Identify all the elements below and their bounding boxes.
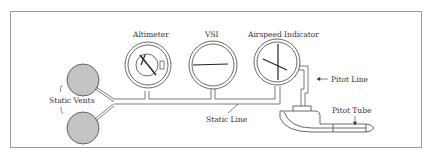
pitot-line <box>299 66 308 106</box>
vsi-gauge <box>189 41 237 89</box>
vent-connectors <box>95 87 114 121</box>
pitot-static-diagram: Altimeter VSI Airspeed Indicator Static … <box>0 0 430 157</box>
static-vent-top <box>67 64 99 96</box>
airspeed-gauge <box>254 39 300 85</box>
static-vents-label: Static Vents <box>49 96 95 105</box>
airspeed-indicator-label: Airspeed Indicator <box>247 30 319 39</box>
vsi-label: VSI <box>204 30 219 39</box>
pitot-line-label: Pitot Line <box>331 75 369 84</box>
static-line-label: Static Line <box>206 115 248 124</box>
static-vent-bottom <box>67 112 99 144</box>
altimeter-label: Altimeter <box>132 30 169 39</box>
pitot-tube-label: Pitot Tube <box>332 106 372 115</box>
static-line <box>114 86 280 104</box>
altimeter-gauge <box>125 42 171 88</box>
